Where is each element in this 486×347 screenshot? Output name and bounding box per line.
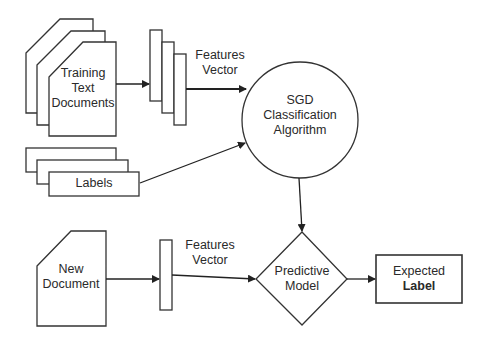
features-top-line-1: Features: [188, 48, 252, 63]
feature-bar-2: [162, 42, 174, 113]
training-docs-line-2: Text: [46, 81, 120, 96]
expected-label-text: Expected Label: [376, 264, 462, 294]
classifier-label: SGD Classification Algorithm: [250, 93, 350, 138]
predictive-model-label: Predictive Model: [262, 264, 342, 294]
features-vector-top-label: Features Vector: [188, 48, 252, 78]
classifier-line-3: Algorithm: [250, 123, 350, 138]
training-docs-line-3: Documents: [46, 96, 120, 111]
features-bottom-line-1: Features: [178, 238, 242, 253]
feature-bar-3: [174, 54, 186, 125]
arrow-features-to-model: [172, 275, 255, 279]
training-docs-label: Training Text Documents: [46, 66, 120, 111]
new-document-label: New Document: [36, 262, 106, 292]
classifier-line-1: SGD: [250, 93, 350, 108]
training-docs-line-1: Training: [46, 66, 120, 81]
features-bottom-line-2: Vector: [178, 253, 242, 268]
features-top-line-2: Vector: [188, 63, 252, 78]
labels-text: Labels: [49, 176, 139, 191]
new-document-line-2: Document: [36, 277, 106, 292]
expected-line-1: Expected: [376, 264, 462, 279]
predictive-line-2: Model: [262, 279, 342, 294]
arrow-labels-to-classifier: [140, 143, 245, 183]
arrow-classifier-to-model: [299, 178, 302, 231]
features-vector-bottom-label: Features Vector: [178, 238, 242, 268]
classifier-line-2: Classification: [250, 108, 350, 123]
new-document-line-1: New: [36, 262, 106, 277]
feature-bar-bottom: [160, 240, 172, 310]
predictive-line-1: Predictive: [262, 264, 342, 279]
expected-line-2: Label: [376, 279, 462, 294]
labels-label: Labels: [49, 176, 139, 191]
feature-bar-1: [150, 30, 162, 101]
